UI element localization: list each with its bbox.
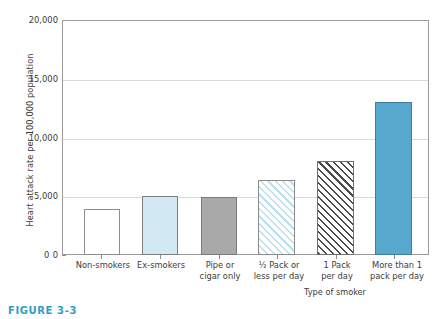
x-tick-mark-1 (101, 255, 102, 259)
x-label-line1: Ex-smokers (137, 260, 185, 270)
y-tick-label-15000: 15,000 (12, 74, 58, 84)
x-axis-title: Type of smoker (270, 287, 400, 297)
y-tick-label-0: 0 (12, 250, 58, 260)
x-tick-mark-5 (336, 255, 337, 259)
x-tick-mark-2 (160, 255, 161, 259)
y-axis-ticks: 0 5,000 10,000 15,000 20,000 (8, 20, 58, 255)
bar-series (63, 21, 428, 255)
x-label-line1: ½ Pack or (259, 260, 300, 270)
y-tick-label-zero: 0 (44, 250, 49, 260)
figure-caption: FIGURE 3-3 (8, 305, 77, 319)
bar-pipe-or-cigar-only[interactable] (201, 197, 237, 255)
bar-more-than-one-pack-per-day[interactable] (375, 102, 412, 255)
x-tick-mark-6 (394, 255, 395, 259)
x-tick-mark-3 (219, 255, 220, 259)
bar-one-pack-per-day[interactable] (317, 161, 354, 255)
x-label-line1: Non-smokers (76, 260, 130, 270)
y-tick-label-5000: 5,000 (12, 191, 58, 201)
y-tick-mark-0 (62, 255, 66, 256)
y-tick-label-10000: 10,000 (12, 133, 58, 143)
x-label-line2: pack per day (357, 271, 437, 282)
figure-container: Heart attack rate per 100,000 population… (0, 0, 442, 319)
bar-non-smokers[interactable] (84, 209, 120, 255)
x-label-more-than-one-pack-per-day: More than 1 pack per day (357, 260, 437, 282)
bar-half-pack-or-less-per-day[interactable] (258, 180, 295, 255)
x-tick-mark-4 (277, 255, 278, 259)
bar-ex-smokers[interactable] (142, 196, 178, 255)
y-tick-label-20000: 20,000 (12, 15, 58, 25)
x-label-line1: Pipe or (206, 260, 235, 270)
x-label-line1: More than 1 (372, 260, 422, 270)
x-label-line1: 1 Pack (324, 260, 351, 270)
